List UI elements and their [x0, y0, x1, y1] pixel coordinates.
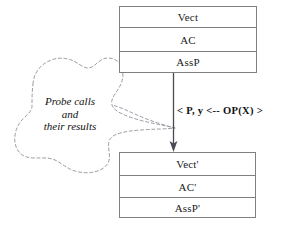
cloud-annotation-line-3: their results	[22, 120, 118, 133]
top-box-row-vect-label: Vect	[178, 11, 198, 23]
top-box-row-ac-label: AC	[180, 34, 196, 46]
cloud-annotation-line-2: and	[22, 108, 118, 121]
bottom-box-row-assp-prime: AssP'	[120, 197, 255, 217]
top-box-row-assp-label: AssP	[176, 56, 199, 68]
bottom-box-row-vect-prime-label: Vect'	[176, 158, 199, 170]
bottom-box-row-ac-prime-label: AC'	[179, 181, 197, 193]
top-box-row-assp: AssP	[120, 51, 256, 72]
cloud-annotation-line-1: Probe calls	[22, 95, 118, 108]
diagram-canvas: Vect AC AssP Vect' AC' AssP' < P, y <-- …	[0, 0, 291, 230]
cloud-annotation: Probe calls and their results	[22, 95, 118, 133]
top-box-row-vect: Vect	[120, 7, 256, 27]
transition-label: < P, y <-- OP(X) >	[177, 105, 263, 116]
refined-state-box: Vect' AC' AssP'	[119, 152, 256, 218]
abstract-state-box: Vect AC AssP	[119, 6, 257, 73]
bottom-box-row-vect-prime: Vect'	[120, 153, 255, 175]
bottom-box-row-ac-prime: AC'	[120, 175, 255, 197]
top-box-row-ac: AC	[120, 27, 256, 51]
bottom-box-row-assp-prime-label: AssP'	[175, 202, 201, 214]
